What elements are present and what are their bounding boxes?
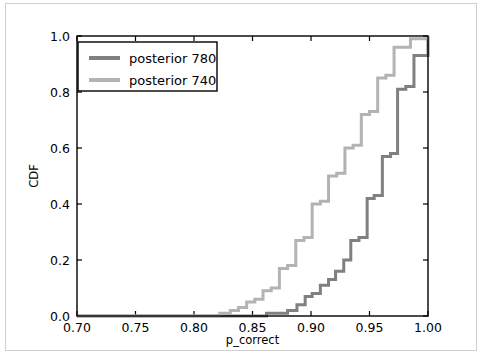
cdf-chart: 0.700.750.800.850.900.951.00 0.00.20.40.… xyxy=(0,0,483,364)
x-tick-label-1: 0.75 xyxy=(122,320,150,335)
y-tick-label-3: 0.6 xyxy=(50,141,70,156)
y-axis-tick-labels: 0.00.20.40.60.81.0 xyxy=(50,29,70,324)
y-tick-label-4: 0.8 xyxy=(50,85,70,100)
y-tick-label-5: 1.0 xyxy=(50,29,70,44)
x-tick-label-6: 1.00 xyxy=(414,320,442,335)
chart-canvas: 0.700.750.800.850.900.951.00 0.00.20.40.… xyxy=(0,0,483,364)
legend-label-0: posterior 780 xyxy=(129,51,216,66)
legend-label-1: posterior 740 xyxy=(129,73,216,88)
y-tick-label-0: 0.0 xyxy=(50,309,70,324)
y-axis-title: CDF xyxy=(27,164,41,188)
y-tick-label-2: 0.4 xyxy=(50,197,70,212)
x-tick-label-4: 0.90 xyxy=(297,320,325,335)
x-tick-label-2: 0.80 xyxy=(180,320,208,335)
x-tick-label-5: 0.95 xyxy=(356,320,384,335)
legend: posterior 780posterior 740 xyxy=(78,42,217,91)
x-axis-title: p_correct xyxy=(226,333,280,347)
y-tick-label-1: 0.2 xyxy=(50,253,70,268)
